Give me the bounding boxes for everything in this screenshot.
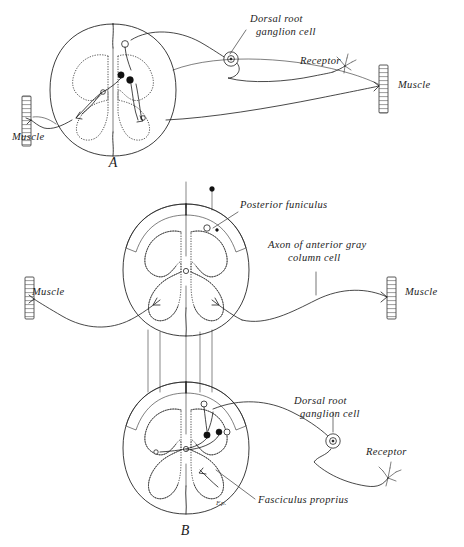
label-dorsal-root-ganglion-cell-b-line1: Dorsal root: [293, 395, 347, 406]
panel-a: [22, 24, 388, 156]
fasciculus-mark: F.p.: [215, 499, 227, 507]
posterior-funiculus-fiber-cell: [204, 225, 210, 231]
ganglion-cell-b: [326, 434, 340, 448]
leader-dorsal-root-ganglion-a: [230, 30, 246, 54]
small-cell: [154, 450, 158, 454]
panel-letter-b: B: [181, 523, 190, 538]
label-receptor-b: Receptor: [365, 446, 407, 457]
interneuron-soma-open: [224, 429, 230, 435]
label-muscle-b-right: Muscle: [404, 286, 437, 297]
central-canal: [183, 268, 188, 273]
tract-origin-dot: [210, 187, 215, 192]
nerve-sheath-a-left: [33, 117, 56, 124]
label-dorsal-root-ganglion-cell-b-line2: ganglion cell: [300, 408, 360, 419]
spinal-reflex-diagram: F.p. Dorsal root ganglion cell Receptor …: [0, 0, 464, 547]
panel-b: F.p.: [25, 182, 401, 514]
leader-fasciculus-proprius: [216, 470, 255, 499]
label-axon-anterior-gray-line1: Axon of anterior gray: [267, 239, 367, 250]
cord-section-a: [50, 24, 176, 156]
label-posterior-funiculus: Posterior funiculus: [239, 199, 327, 210]
interneuron-soma: [204, 432, 210, 438]
dorsal-horn-cell: [201, 401, 207, 407]
fasciculus-proprius-tract: [148, 330, 212, 392]
cord-section-b-lower: F.p.: [123, 382, 249, 514]
interneuron-soma: [127, 77, 134, 84]
label-muscle-a-left: Muscle: [11, 131, 44, 142]
label-muscle-b-left: Muscle: [31, 286, 64, 297]
motor-axon-a-right: [166, 86, 379, 120]
label-fasciculus-proprius: Fasciculus proprius: [257, 494, 349, 505]
label-muscle-a-right: Muscle: [397, 79, 430, 90]
receptor-endings-b: [379, 462, 401, 486]
label-dorsal-root-ganglion-cell-a-line1: Dorsal root: [249, 13, 303, 24]
interneuron-soma: [118, 72, 124, 78]
label-receptor-a: Receptor: [299, 55, 341, 66]
muscle-icon-b-left: [25, 277, 34, 319]
interneuron-soma: [216, 429, 222, 435]
label-axon-anterior-gray-line2: column cell: [288, 252, 341, 263]
figure-root: F.p. Dorsal root ganglion cell Receptor …: [0, 0, 464, 547]
label-dorsal-root-ganglion-cell-a-line2: ganglion cell: [256, 26, 316, 37]
label-layer: Dorsal root ganglion cell Receptor Muscl…: [11, 13, 437, 538]
muscle-icon-a-right: [374, 65, 388, 113]
dorsal-horn-cell: [122, 41, 129, 48]
tract-fiber-dot: [216, 229, 219, 232]
cord-section-b-upper: [123, 204, 249, 336]
panel-letter-a: A: [108, 155, 118, 170]
ascending-tract-lines: [186, 182, 214, 210]
dorsal-root-fiber-a: [131, 32, 226, 58]
motor-axon-b-right: [242, 290, 387, 321]
muscle-icon-b-right: [381, 277, 396, 319]
motor-axon-b-left: [34, 299, 130, 327]
